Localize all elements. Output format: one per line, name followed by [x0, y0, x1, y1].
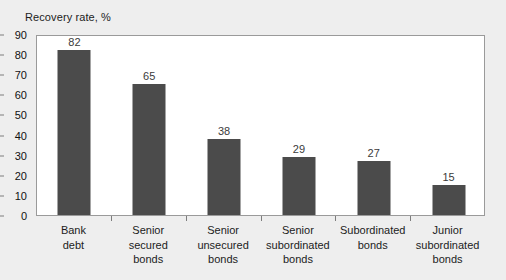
x-axis-category-label-line: Senior	[261, 223, 336, 238]
y-axis-tick-label: 50	[15, 109, 27, 121]
bar[interactable]	[208, 139, 241, 215]
x-axis-category-label-line: Junior	[410, 223, 485, 238]
y-axis-tick-label: 60	[15, 89, 27, 101]
y-axis-tick-mark	[0, 195, 4, 196]
y-axis-tick-label: 70	[15, 69, 27, 81]
x-axis-category-label-line: bonds	[410, 252, 485, 267]
plot-area: 826538292715	[36, 35, 485, 216]
chart-figure: Recovery rate, % 0102030405060708090 826…	[0, 0, 506, 280]
bar-value-label: 82	[68, 36, 80, 48]
bar-value-label: 29	[293, 143, 305, 155]
x-axis-category-label-line: Senior	[111, 223, 186, 238]
x-axis-category-label-line: bonds	[186, 252, 261, 267]
x-axis-category-label-line: subordinated	[261, 238, 336, 253]
x-axis-tick-mark	[111, 216, 112, 221]
y-axis-tick-mark	[0, 115, 4, 116]
x-axis-tick-mark	[335, 216, 336, 221]
y-axis-tick-mark	[0, 75, 4, 76]
y-axis-tick-mark	[0, 55, 4, 56]
x-axis-labels: BankdebtSeniorsecuredbondsSeniorunsecure…	[36, 223, 485, 277]
bar-value-label: 15	[442, 171, 454, 183]
x-axis-category-label-line: secured	[111, 238, 186, 253]
bar-value-label: 27	[368, 147, 380, 159]
x-axis-category-label-line: debt	[36, 238, 111, 253]
x-axis-category-label: Subordinatedbonds	[335, 223, 410, 252]
x-axis-category-label: Juniorsubordinatedbonds	[410, 223, 485, 267]
bar[interactable]	[133, 84, 166, 215]
bar-slot: 65	[112, 36, 187, 215]
bar-slot: 82	[37, 36, 112, 215]
bar-value-label: 38	[218, 125, 230, 137]
bar[interactable]	[282, 157, 315, 215]
bar[interactable]	[58, 50, 91, 215]
y-axis-tick-label: 80	[15, 49, 27, 61]
x-axis-category-label: Bankdebt	[36, 223, 111, 252]
y-axis-tick-mark	[0, 216, 4, 217]
x-axis-category-label-line: unsecured	[186, 238, 261, 253]
bar-slot: 15	[411, 36, 486, 215]
y-axis: 0102030405060708090	[0, 28, 33, 216]
bar-slot: 38	[187, 36, 262, 215]
x-axis-category-label-line: bonds	[335, 238, 410, 253]
x-axis-category-label-line: bonds	[261, 252, 336, 267]
bar[interactable]	[432, 185, 465, 215]
x-axis-tick-mark	[186, 216, 187, 221]
chart-title: Recovery rate, %	[25, 11, 111, 23]
x-axis-category-label-line: bonds	[111, 252, 186, 267]
y-axis-tick-mark	[0, 135, 4, 136]
y-axis-tick-mark	[0, 155, 4, 156]
y-axis-tick-mark	[0, 35, 4, 36]
x-axis-category-label-line: Subordinated	[335, 223, 410, 238]
x-axis-category-label: Seniorsecuredbonds	[111, 223, 186, 267]
x-axis-category-label-line: Senior	[186, 223, 261, 238]
x-axis-category-label: Seniorsubordinatedbonds	[261, 223, 336, 267]
y-axis-tick-label: 20	[15, 170, 27, 182]
y-axis-tick-mark	[0, 95, 4, 96]
bar[interactable]	[357, 161, 390, 215]
bar-slot: 27	[336, 36, 411, 215]
y-axis-tick-mark	[0, 175, 4, 176]
y-axis-tick-label: 30	[15, 150, 27, 162]
y-axis-tick-label: 10	[15, 190, 27, 202]
y-axis-tick-label: 40	[15, 130, 27, 142]
x-axis-category-label: Seniorunsecuredbonds	[186, 223, 261, 267]
x-axis-category-label-line: Bank	[36, 223, 111, 238]
x-axis-category-label-line: subordinated	[410, 238, 485, 253]
plot-inner: 826538292715	[37, 36, 484, 215]
x-axis-tick-mark	[410, 216, 411, 221]
y-axis-tick-label: 0	[21, 210, 27, 222]
bar-value-label: 65	[143, 70, 155, 82]
bar-slot: 29	[262, 36, 337, 215]
y-axis-tick-label: 90	[15, 29, 27, 41]
x-axis-tick-mark	[261, 216, 262, 221]
